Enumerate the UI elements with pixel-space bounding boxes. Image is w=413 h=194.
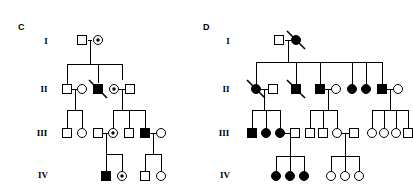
square-symbol-c-IV-1[interactable] [102, 172, 111, 181]
circle-symbol-c-III-7[interactable] [157, 129, 166, 138]
square-symbol-c-III-1[interactable] [63, 129, 72, 138]
individual-d-III-7[interactable] [333, 129, 342, 138]
circle-symbol-d-IV-2[interactable] [286, 172, 295, 181]
square-symbol-d-II-2[interactable] [269, 85, 278, 94]
square-symbol-d-III-5[interactable] [306, 129, 315, 138]
individual-d-IV-3[interactable] [300, 172, 309, 181]
circle-symbol-c-III-2[interactable] [78, 129, 87, 138]
circle-symbol-d-IV-1[interactable] [272, 172, 281, 181]
individual-d-III-8[interactable] [350, 129, 359, 138]
individual-d-III-5[interactable] [306, 129, 315, 138]
individual-d-II-9[interactable] [394, 85, 403, 94]
square-symbol-d-III-6[interactable] [319, 129, 328, 138]
circle-symbol-d-IV-5[interactable] [341, 172, 350, 181]
carrier-dot-c-II-4 [112, 87, 115, 90]
individual-d-II-7[interactable] [362, 85, 371, 94]
individual-d-III-2[interactable] [262, 129, 271, 138]
individual-c-II-1[interactable] [63, 85, 72, 94]
generation-label-D-III: III [219, 128, 230, 138]
generation-label-C-I: I [44, 36, 48, 46]
individual-d-IV-5[interactable] [341, 172, 350, 181]
generation-label-C-IV: IV [38, 170, 49, 180]
individual-c-III-6[interactable] [141, 129, 150, 138]
pedigree-figure: CIIIIIIIVDIIIIIIIV [0, 0, 413, 194]
generation-label-D-IV: IV [220, 170, 231, 180]
individual-c-III-5[interactable] [125, 129, 134, 138]
circle-symbol-d-III-2[interactable] [262, 129, 271, 138]
circle-symbol-d-IV-6[interactable] [355, 172, 364, 181]
individual-d-III-4[interactable] [291, 129, 300, 138]
circle-symbol-d-II-5[interactable] [332, 85, 341, 94]
circle-symbol-d-IV-4[interactable] [327, 172, 336, 181]
generation-label-D-II: II [222, 84, 230, 94]
individual-d-II-5[interactable] [332, 85, 341, 94]
square-symbol-d-II-8[interactable] [378, 85, 387, 94]
individual-d-II-2[interactable] [269, 85, 278, 94]
circle-symbol-c-IV-4[interactable] [157, 172, 166, 181]
square-symbol-d-III-12[interactable] [404, 129, 413, 138]
square-symbol-d-III-1[interactable] [248, 129, 257, 138]
individual-c-IV-4[interactable] [157, 172, 166, 181]
individual-c-I-1[interactable] [78, 36, 87, 45]
circle-symbol-c-II-2[interactable] [78, 85, 87, 94]
square-symbol-d-I-1[interactable] [275, 36, 284, 45]
generation-label-C-II: II [40, 84, 48, 94]
circle-symbol-d-III-11[interactable] [392, 129, 401, 138]
generation-label-D-I: I [226, 36, 230, 46]
individual-c-II-2[interactable] [78, 85, 87, 94]
individual-c-III-1[interactable] [63, 129, 72, 138]
carrier-dot-c-I-2 [96, 38, 99, 41]
square-symbol-d-II-4[interactable] [316, 85, 325, 94]
circle-symbol-d-III-9[interactable] [368, 129, 377, 138]
individual-c-III-2[interactable] [78, 129, 87, 138]
individual-d-III-10[interactable] [380, 129, 389, 138]
individual-d-III-3[interactable] [276, 129, 285, 138]
individual-d-IV-2[interactable] [286, 172, 295, 181]
individual-d-II-8[interactable] [378, 85, 387, 94]
square-symbol-d-III-8[interactable] [350, 129, 359, 138]
square-symbol-c-II-5[interactable] [126, 85, 135, 94]
circle-symbol-d-III-3[interactable] [276, 129, 285, 138]
circle-symbol-d-II-9[interactable] [394, 85, 403, 94]
individual-c-IV-3[interactable] [141, 172, 150, 181]
individual-c-III-7[interactable] [157, 129, 166, 138]
individual-c-IV-1[interactable] [102, 172, 111, 181]
individual-d-IV-4[interactable] [327, 172, 336, 181]
circle-symbol-d-III-10[interactable] [380, 129, 389, 138]
square-symbol-c-III-5[interactable] [125, 129, 134, 138]
square-symbol-c-II-1[interactable] [63, 85, 72, 94]
circle-symbol-d-II-6[interactable] [348, 85, 357, 94]
square-symbol-c-I-1[interactable] [78, 36, 87, 45]
circle-symbol-d-II-7[interactable] [362, 85, 371, 94]
individual-d-III-11[interactable] [392, 129, 401, 138]
square-symbol-d-III-4[interactable] [291, 129, 300, 138]
carrier-dot-c-III-4 [111, 131, 114, 134]
individual-d-III-1[interactable] [248, 129, 257, 138]
individual-d-III-12[interactable] [404, 129, 413, 138]
individual-d-IV-6[interactable] [355, 172, 364, 181]
individual-d-II-6[interactable] [348, 85, 357, 94]
individual-d-I-1[interactable] [275, 36, 284, 45]
square-symbol-c-III-3[interactable] [94, 129, 103, 138]
square-symbol-c-III-6[interactable] [141, 129, 150, 138]
circle-symbol-d-IV-3[interactable] [300, 172, 309, 181]
individual-d-III-9[interactable] [368, 129, 377, 138]
square-symbol-c-IV-3[interactable] [141, 172, 150, 181]
individual-c-II-4[interactable] [110, 85, 119, 94]
individual-d-II-4[interactable] [316, 85, 325, 94]
individual-d-III-6[interactable] [319, 129, 328, 138]
generation-label-C-III: III [37, 128, 48, 138]
individual-c-II-5[interactable] [126, 85, 135, 94]
individual-c-III-3[interactable] [94, 129, 103, 138]
individual-c-I-2[interactable] [94, 36, 103, 45]
panel-label-C: C [18, 22, 25, 32]
panel-label-D: D [203, 22, 210, 32]
individual-d-IV-1[interactable] [272, 172, 281, 181]
individual-c-III-4[interactable] [109, 129, 118, 138]
circle-symbol-d-III-7[interactable] [333, 129, 342, 138]
carrier-dot-c-IV-2 [120, 174, 123, 177]
individual-c-IV-2[interactable] [118, 172, 127, 181]
